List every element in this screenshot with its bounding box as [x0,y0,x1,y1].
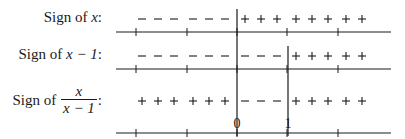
plus-sign [308,52,316,60]
plus-sign [292,52,300,60]
axis-labels: 01 [234,116,292,131]
plus-sign [241,15,249,23]
plus-sign [358,52,366,60]
plus-sign [257,15,265,23]
critical-point-dividers [237,9,288,136]
plus-sign [358,15,366,23]
plus-sign [342,52,350,60]
plus-sign [324,52,332,60]
plus-sign [170,97,178,105]
plus-sign [292,97,300,105]
plus-sign [358,97,366,105]
sign-chart: 01 [0,0,405,139]
plus-sign [324,15,332,23]
plus-sign [273,15,281,23]
number-lines [116,28,391,137]
plus-sign [138,97,146,105]
plus-sign [342,97,350,105]
sign-symbols [138,15,366,105]
critical-point-label: 0 [234,116,241,131]
plus-sign [154,97,162,105]
plus-sign [189,97,197,105]
critical-point-label: 1 [285,116,292,131]
plus-sign [292,15,300,23]
plus-sign [308,15,316,23]
plus-sign [205,97,213,105]
plus-sign [342,15,350,23]
plus-sign [324,97,332,105]
plus-sign [221,97,229,105]
plus-sign [308,97,316,105]
